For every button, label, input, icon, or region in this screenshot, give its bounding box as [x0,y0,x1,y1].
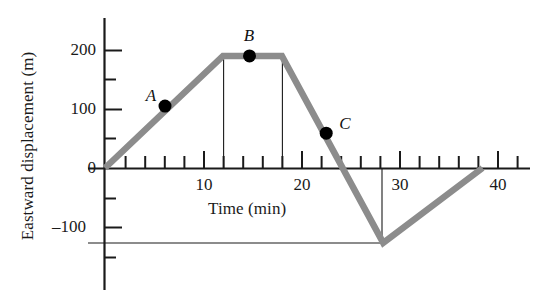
point-marker-b [243,49,256,62]
y-tick-label-minus100: –100 [30,217,86,237]
x-tick-label-40: 40 [478,175,518,195]
point-label-a: A [141,86,161,106]
x-axis-ticks [126,151,518,169]
y-axis-title: Eastward displacement (m) [18,36,38,256]
y-tick-label-200: 200 [40,40,96,60]
point-marker-c [320,127,333,140]
x-axis-title: Time (min) [208,199,286,219]
x-tick-label-30: 30 [380,175,420,195]
point-label-b: B [239,26,259,46]
y-tick-label-100: 100 [40,99,96,119]
x-tick-label-10: 10 [184,175,224,195]
y-tick-label-0: 0 [40,158,96,178]
displacement-curve [105,56,483,243]
point-label-c: C [335,114,355,134]
x-tick-label-20: 20 [282,175,322,195]
displacement-vs-time-chart: 200 100 0 –100 10 20 30 40 A B C Eastwar… [0,0,537,299]
axis-lines [88,18,530,290]
